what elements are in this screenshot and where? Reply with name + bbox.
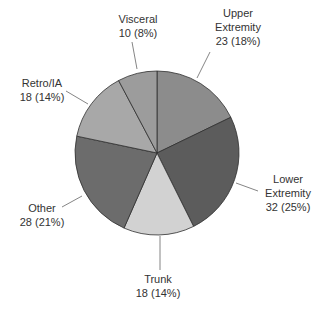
label-visceral-name: Visceral (110, 12, 166, 26)
label-upper-extremity-value: 23 (18%) (208, 34, 268, 48)
label-other-value: 28 (21%) (14, 215, 70, 229)
leader-line-upper-extremity (197, 52, 210, 78)
label-other: Other 28 (21%) (14, 201, 70, 229)
label-trunk-value: 18 (14%) (128, 286, 188, 300)
label-upper-extremity-line1: Upper (208, 6, 268, 20)
label-trunk: Trunk 18 (14%) (128, 272, 188, 300)
leader-line-visceral (132, 42, 137, 69)
label-upper-extremity-line2: Extremity (208, 20, 268, 34)
label-retro-ia-name: Retro/IA (14, 76, 70, 90)
label-lower-extremity-line1: Lower (256, 172, 320, 186)
label-visceral: Visceral 10 (8%) (110, 12, 166, 40)
label-retro-ia-value: 18 (14%) (14, 90, 70, 104)
pie-chart (0, 0, 327, 309)
label-lower-extremity-value: 32 (25%) (256, 200, 320, 214)
label-visceral-value: 10 (8%) (110, 26, 166, 40)
label-retro-ia: Retro/IA 18 (14%) (14, 76, 70, 104)
leader-line-lower-extremity (236, 183, 258, 191)
pie-slices (75, 71, 239, 235)
label-upper-extremity: Upper Extremity 23 (18%) (208, 6, 268, 48)
label-trunk-name: Trunk (128, 272, 188, 286)
label-lower-extremity: Lower Extremity 32 (25%) (256, 172, 320, 214)
label-other-name: Other (14, 201, 70, 215)
label-lower-extremity-line2: Extremity (256, 186, 320, 200)
